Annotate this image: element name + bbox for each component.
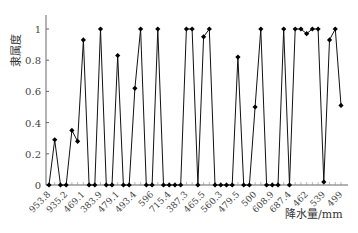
data-point	[281, 26, 286, 31]
data-point	[247, 182, 252, 187]
y-tick-label: 0.6	[25, 86, 41, 97]
data-series	[46, 26, 343, 187]
data-point	[258, 26, 263, 31]
data-point	[230, 182, 235, 187]
data-point	[264, 182, 269, 187]
data-point	[253, 104, 258, 109]
y-tick-label: 0.2	[25, 149, 41, 160]
y-tick-label: 0	[35, 180, 41, 191]
data-point	[115, 53, 120, 58]
data-point	[161, 182, 166, 187]
data-point	[184, 26, 189, 31]
data-point	[212, 182, 217, 187]
data-point	[149, 182, 154, 187]
y-tick-label: 0.8	[25, 55, 41, 66]
data-point	[167, 182, 172, 187]
data-point	[75, 139, 80, 144]
data-point	[64, 182, 69, 187]
data-point	[333, 26, 338, 31]
data-point	[287, 182, 292, 187]
y-tick-label: 1	[35, 24, 41, 35]
data-point	[327, 37, 332, 42]
data-point	[235, 54, 240, 59]
axes: 00.20.40.60.81953.8935.2469.1383.9479.14…	[25, 15, 348, 215]
data-point	[275, 182, 280, 187]
x-tick-label: 499	[325, 189, 344, 208]
line-chart: 00.20.40.60.81953.8935.2469.1383.9479.14…	[0, 0, 358, 233]
data-point	[98, 26, 103, 31]
y-tick-label: 0.4	[25, 118, 41, 129]
data-point	[315, 26, 320, 31]
data-point	[121, 182, 126, 187]
data-point	[195, 182, 200, 187]
data-point	[155, 26, 160, 31]
data-point	[127, 182, 132, 187]
data-point	[224, 182, 229, 187]
data-point	[172, 182, 177, 187]
data-point	[86, 182, 91, 187]
data-point	[81, 37, 86, 42]
data-point	[132, 86, 137, 91]
data-point	[46, 182, 51, 187]
data-point	[109, 182, 114, 187]
x-tick-label: 462	[291, 189, 310, 208]
data-point	[104, 182, 109, 187]
data-point	[69, 128, 74, 133]
data-point	[270, 182, 275, 187]
data-point	[138, 26, 143, 31]
data-point	[241, 182, 246, 187]
data-point	[321, 179, 326, 184]
data-point	[58, 182, 63, 187]
data-point	[144, 182, 149, 187]
data-point	[338, 103, 343, 108]
y-axis-label: 隶属度	[9, 34, 23, 67]
data-point	[218, 182, 223, 187]
data-point	[92, 182, 97, 187]
series-line	[49, 29, 341, 185]
data-point	[190, 26, 195, 31]
data-point	[52, 137, 57, 142]
data-point	[178, 182, 183, 187]
data-point	[293, 26, 298, 31]
x-tick-label: 539	[308, 189, 327, 208]
x-axis-label: 降水量/mm	[285, 207, 343, 221]
